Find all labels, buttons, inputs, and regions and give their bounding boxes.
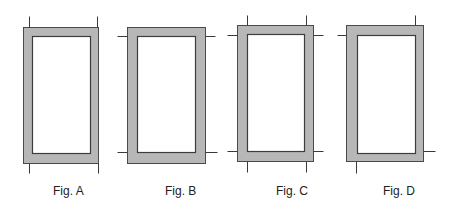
figure-a-caption: Fig. A — [53, 184, 84, 198]
figure-c — [228, 16, 324, 173]
figure-c-caption: Fig. C — [276, 184, 308, 198]
frame-opening — [248, 35, 305, 152]
frame-opening — [138, 37, 196, 153]
figure-b-caption: Fig. B — [165, 184, 196, 198]
figure-d-caption: Fig. D — [383, 184, 415, 198]
figure-canvas — [0, 0, 456, 210]
figure-b — [118, 28, 218, 164]
frame-opening — [33, 37, 91, 154]
figure-d — [338, 16, 436, 174]
frame-opening — [358, 36, 416, 154]
figure-a — [24, 17, 99, 174]
